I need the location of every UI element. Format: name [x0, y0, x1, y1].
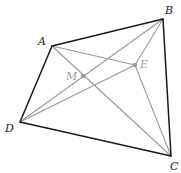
side-cd: [20, 122, 171, 156]
side-ab: [52, 19, 163, 46]
segment-ac: [52, 46, 171, 156]
label-e: E: [139, 58, 148, 71]
segment-ae: [52, 46, 135, 65]
marked-points: [81, 63, 137, 78]
segment-ec: [135, 65, 171, 156]
side-bc: [163, 19, 171, 156]
point-m-dot: [81, 74, 85, 78]
label-d: D: [4, 122, 14, 135]
geometry-diagram: ABCDME: [0, 0, 181, 173]
label-a: A: [37, 35, 46, 48]
point-e-dot: [133, 63, 137, 67]
segment-de: [20, 65, 135, 122]
label-b: B: [164, 4, 173, 17]
point-labels: ABCDME: [4, 4, 179, 173]
label-m: M: [65, 70, 78, 83]
label-c: C: [170, 160, 179, 173]
